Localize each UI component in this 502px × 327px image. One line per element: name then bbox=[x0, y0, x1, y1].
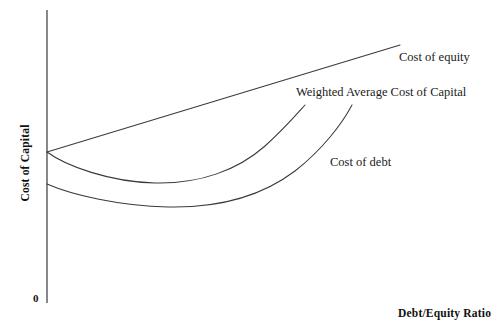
series-cost-of-debt bbox=[47, 105, 352, 207]
x-axis-label: Debt/Equity Ratio bbox=[398, 307, 491, 319]
annotation-cost-of-equity: Cost of equity bbox=[399, 50, 470, 65]
y-axis-label: Cost of Capital bbox=[0, 113, 50, 213]
annotation-weighted-average-cost-of-capital: Weighted Average Cost of Capital bbox=[296, 85, 466, 100]
y-axis-label-text: Cost of Capital bbox=[19, 124, 31, 201]
cost-of-capital-chart: Cost of Capital Debt/Equity Ratio 0 Cost… bbox=[0, 0, 502, 327]
origin-tick-label: 0 bbox=[33, 292, 39, 304]
annotation-cost-of-debt: Cost of debt bbox=[330, 155, 391, 170]
series-weighted-average-cost-of-capital bbox=[47, 105, 305, 183]
